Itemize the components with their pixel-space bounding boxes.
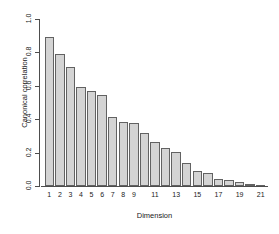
bar	[171, 152, 181, 186]
bar	[129, 123, 139, 186]
y-axis-tick-label: 0.6	[0, 82, 34, 89]
y-axis-tick-label: 0.4	[0, 115, 34, 122]
y-axis-tick	[35, 119, 39, 120]
bar	[182, 163, 192, 186]
bar	[203, 173, 213, 186]
y-axis-tick	[35, 153, 39, 154]
x-axis-tick-label: 13	[172, 191, 180, 198]
y-axis-tick-label: 0.2	[0, 149, 34, 156]
x-axis-tick-label: 4	[79, 191, 83, 198]
y-axis-line	[39, 19, 40, 187]
bar	[45, 37, 55, 186]
bar	[140, 133, 150, 186]
y-axis-tick-label: 0.8	[0, 48, 34, 55]
x-axis-tick-label: 5	[90, 191, 94, 198]
y-axis-tick	[35, 52, 39, 53]
y-axis-tick	[35, 86, 39, 87]
bar	[97, 95, 107, 186]
bar	[55, 54, 65, 186]
bar	[224, 180, 234, 186]
canonical-correlation-bar-chart: 0.00.20.40.60.81.0 123456789111315171921…	[0, 0, 279, 234]
y-axis-tick-label-text: 0.0	[26, 181, 33, 191]
bar	[76, 87, 86, 186]
x-axis-tick-label: 8	[121, 191, 125, 198]
bar	[235, 182, 245, 186]
y-axis-tick	[35, 186, 39, 187]
bar	[245, 184, 255, 186]
bar	[256, 185, 266, 186]
x-axis-tick-label: 3	[68, 191, 72, 198]
x-axis-tick-label: 2	[58, 191, 62, 198]
y-axis-tick-label-text: 1.0	[26, 14, 33, 24]
x-axis-tick-label: 15	[193, 191, 201, 198]
y-axis-tick-label: 0.0	[0, 182, 34, 189]
bar	[161, 148, 171, 186]
bar	[150, 142, 160, 186]
bar	[108, 117, 118, 186]
x-axis-tick-label: 11	[151, 191, 158, 198]
bar	[214, 179, 224, 186]
y-axis-tick	[35, 19, 39, 20]
bar	[87, 91, 97, 186]
x-axis-tick-label: 17	[215, 191, 223, 198]
bar	[66, 67, 76, 186]
y-axis-tick-label: 1.0	[0, 15, 34, 22]
x-axis-tick-label: 19	[236, 191, 244, 198]
x-axis-tick-label: 6	[100, 191, 104, 198]
bar	[193, 171, 203, 186]
x-axis-tick-label: 7	[111, 191, 115, 198]
x-axis-tick-label: 9	[132, 191, 136, 198]
x-axis-tick-label: 21	[257, 191, 265, 198]
x-axis-title: Dimension	[41, 211, 268, 220]
x-axis-line	[41, 186, 268, 187]
bar	[119, 122, 129, 186]
x-axis-tick-label: 1	[47, 191, 51, 198]
y-axis-title: Canonical correlation	[20, 33, 29, 153]
